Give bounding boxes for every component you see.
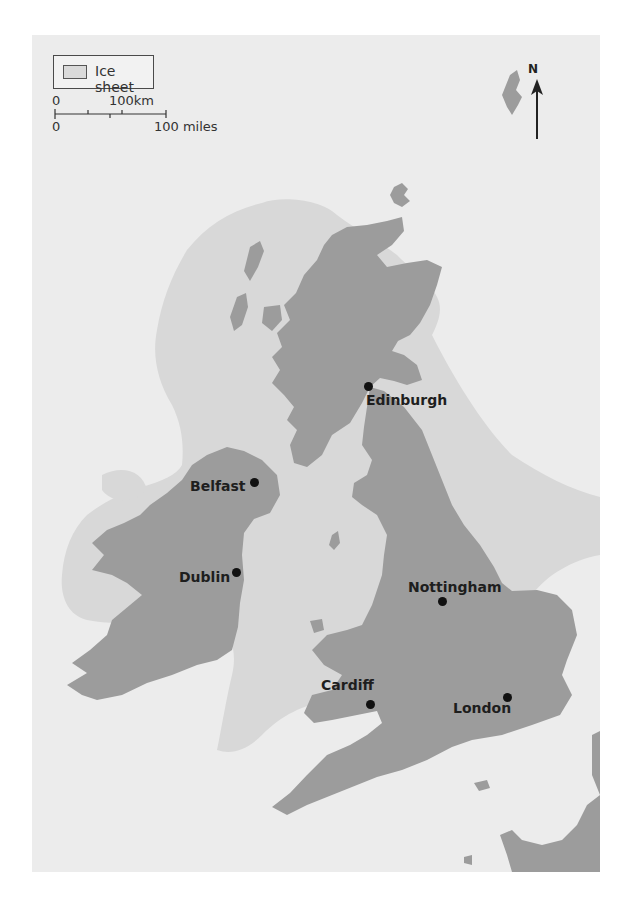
shetland-islands xyxy=(502,70,522,115)
channel-islands xyxy=(464,855,472,865)
belgium-coast xyxy=(592,731,600,795)
ice-sheet-swatch xyxy=(63,65,87,79)
city-dot-dublin xyxy=(232,568,241,577)
city-label-edinburgh: Edinburgh xyxy=(366,392,447,408)
north-arrow-icon xyxy=(531,79,543,139)
north-label: N xyxy=(528,62,538,76)
france xyxy=(500,795,600,872)
city-label-dublin: Dublin xyxy=(179,569,230,585)
scale-bar xyxy=(55,109,166,119)
map-frame: Ice sheet 0 100km 0 100 miles N Edinburg… xyxy=(32,35,600,872)
legend: Ice sheet xyxy=(53,55,154,89)
scale-km-end: 100km xyxy=(109,93,154,108)
city-label-cardiff: Cardiff xyxy=(321,677,374,693)
city-dot-edinburgh xyxy=(364,382,373,391)
city-dot-belfast xyxy=(250,478,259,487)
city-dot-nottingham xyxy=(438,597,447,606)
legend-label-ice-sheet: Ice sheet xyxy=(95,63,153,95)
map-canvas xyxy=(32,35,600,872)
scale-miles-end: 100 miles xyxy=(154,119,218,134)
city-label-nottingham: Nottingham xyxy=(408,579,502,595)
city-dot-cardiff xyxy=(366,700,375,709)
scale-miles-start: 0 xyxy=(52,119,60,134)
city-label-london: London xyxy=(453,700,511,716)
city-label-belfast: Belfast xyxy=(190,478,246,494)
scale-km-start: 0 xyxy=(52,93,60,108)
orkney-islands xyxy=(390,183,410,207)
isle-of-wight xyxy=(474,780,490,791)
